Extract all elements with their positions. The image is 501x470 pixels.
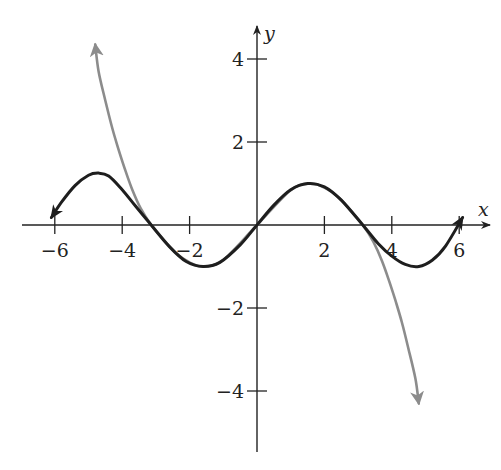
x-axis-label: x (478, 198, 489, 220)
x-tick-label: −6 (41, 239, 69, 261)
y-tick-label: −4 (216, 380, 244, 402)
x-tick-label: 6 (453, 239, 465, 261)
y-tick-label: 4 (232, 48, 244, 70)
y-tick-label: −2 (216, 297, 244, 319)
x-tick-label: −4 (108, 239, 136, 261)
y-axis-label: y (263, 22, 275, 44)
function-plot: x y −6−4−2246−4−224 (0, 0, 501, 470)
y-tick-label: 2 (232, 131, 244, 153)
x-tick-label: 2 (318, 239, 330, 261)
